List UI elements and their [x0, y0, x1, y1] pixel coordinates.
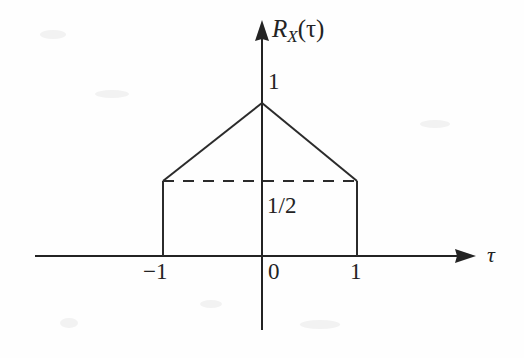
y-axis-label-subscript: X	[287, 27, 297, 46]
x-tick-label-one: 1	[350, 260, 362, 283]
curve-left-slope	[163, 103, 262, 181]
y-axis-label-argument: (τ)	[298, 15, 325, 42]
figure-container: RX(τ) 1 1/2 −1 0 1 τ	[0, 0, 524, 358]
y-axis-label: RX(τ)	[272, 16, 324, 45]
x-axis-label: τ	[487, 244, 495, 266]
curve-right-slope	[262, 103, 357, 181]
plot-canvas	[0, 0, 524, 358]
x-tick-label-zero: 0	[268, 260, 280, 283]
y-axis-label-base: R	[272, 15, 287, 42]
y-axis-arrowhead	[255, 20, 269, 41]
x-tick-label-negative-one: −1	[143, 260, 167, 283]
y-tick-label-half: 1/2	[267, 194, 296, 217]
x-axis-arrowhead	[455, 249, 476, 263]
y-tick-label-one: 1	[268, 70, 280, 93]
